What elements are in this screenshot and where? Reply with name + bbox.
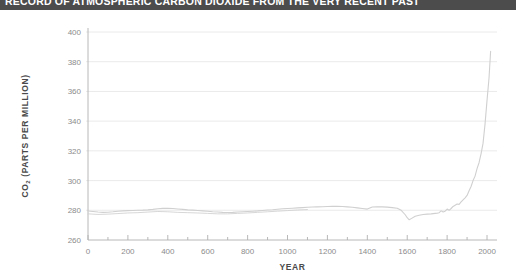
svg-text:2000: 2000 [478, 247, 496, 256]
svg-text:CO2 (PARTS PER MILLION): CO2 (PARTS PER MILLION) [20, 74, 31, 197]
svg-text:1800: 1800 [438, 247, 456, 256]
svg-text:300: 300 [68, 177, 82, 186]
svg-text:1400: 1400 [358, 247, 376, 256]
x-axis-ticks [88, 235, 487, 240]
co2-line-chart: 260280300320340360380400 020040060080010… [0, 10, 516, 275]
svg-text:0: 0 [86, 247, 91, 256]
y-axis-tick-labels: 260280300320340360380400 [68, 28, 82, 245]
svg-text:600: 600 [201, 247, 215, 256]
svg-text:400: 400 [161, 247, 175, 256]
page-title: RECORD OF ATMOSPHERIC CARBON DIOXIDE FRO… [5, 0, 420, 7]
svg-text:380: 380 [68, 58, 82, 67]
svg-text:1000: 1000 [279, 247, 297, 256]
svg-text:360: 360 [68, 87, 82, 96]
svg-text:800: 800 [241, 247, 255, 256]
chart-title-banner: RECORD OF ATMOSPHERIC CARBON DIOXIDE FRO… [0, 0, 516, 10]
chart-page: RECORD OF ATMOSPHERIC CARBON DIOXIDE FRO… [0, 0, 516, 275]
data-series-group [88, 51, 491, 219]
svg-text:340: 340 [68, 117, 82, 126]
svg-text:200: 200 [121, 247, 135, 256]
svg-text:320: 320 [68, 147, 82, 156]
svg-text:1200: 1200 [319, 247, 337, 256]
axis-titles: YEARCO2 (PARTS PER MILLION) [20, 74, 306, 272]
chart-svg: 260280300320340360380400 020040060080010… [0, 10, 516, 275]
svg-text:400: 400 [68, 28, 82, 37]
svg-text:280: 280 [68, 206, 82, 215]
svg-text:YEAR: YEAR [279, 262, 305, 272]
gridlines [86, 32, 497, 210]
x-axis-tick-labels: 0200400600800100012001400160018002000 [86, 247, 497, 256]
svg-text:1600: 1600 [398, 247, 416, 256]
svg-text:260: 260 [68, 236, 82, 245]
